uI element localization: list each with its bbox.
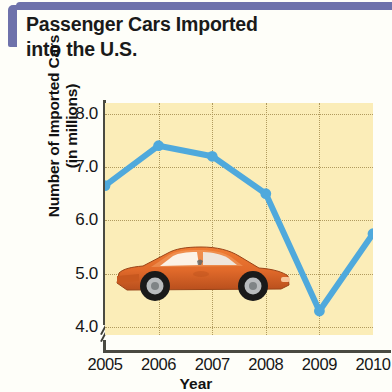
x-tick-label: 2006 (131, 355, 187, 374)
x-tick-label: 2007 (184, 355, 240, 374)
data-point-marker (153, 140, 164, 151)
chart-page: Passenger Cars Imported into the U.S. Nu… (0, 0, 392, 392)
series-polyline (105, 146, 373, 311)
y-tick-label: 4.0 (50, 317, 98, 337)
data-point-marker (260, 188, 271, 199)
x-tick-label: 2010 (345, 355, 392, 374)
x-tick-label: 2008 (238, 355, 294, 374)
data-point-marker (207, 151, 218, 162)
bracket-left-bar (8, 5, 17, 47)
y-tick-label: 7.0 (50, 157, 98, 177)
y-tick-label: 5.0 (50, 264, 98, 284)
x-tick-label: 2009 (291, 355, 347, 374)
y-tick-label: 6.0 (50, 210, 98, 230)
data-series-line (105, 103, 373, 335)
y-axis-tick-labels: 8.07.06.05.04.0 (46, 0, 98, 392)
plot-area (105, 103, 373, 335)
x-axis-title: Year (0, 375, 392, 392)
x-tick-label: 2005 (77, 355, 133, 374)
data-point-marker (314, 306, 325, 317)
x-axis-line (103, 350, 391, 353)
y-tick-label: 8.0 (50, 104, 98, 124)
